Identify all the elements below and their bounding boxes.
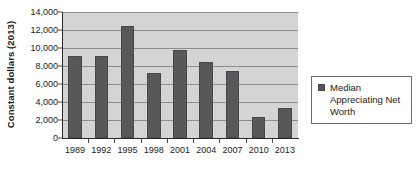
x-axis-tick-mark <box>246 139 247 143</box>
bar <box>199 62 213 138</box>
bar <box>278 108 292 138</box>
x-axis-tick-label: 1998 <box>144 145 164 155</box>
x-axis-tick-mark <box>219 139 220 143</box>
y-axis-title: Constant dollars (2013) <box>0 0 22 148</box>
y-axis-tick-label: 4,000 <box>35 97 58 107</box>
x-axis-tick-label: 2007 <box>222 145 242 155</box>
x-axis-tick-label: 2013 <box>275 145 295 155</box>
legend-swatch-icon <box>318 84 325 91</box>
y-axis-tick-label: 14,000 <box>30 7 58 17</box>
y-axis-line <box>62 12 63 139</box>
x-axis-tick-mark <box>114 139 115 143</box>
bar-chart: Constant dollars (2013) 02,0004,0006,000… <box>0 0 417 169</box>
x-axis-tick-label: 2010 <box>249 145 269 155</box>
x-axis-tick-mark <box>167 139 168 143</box>
x-axis-tick-label: 1995 <box>118 145 138 155</box>
x-axis-tick-label: 1989 <box>65 145 85 155</box>
legend: Median Appreciating Net Worth <box>311 76 412 124</box>
x-axis-tick-label: 1992 <box>91 145 111 155</box>
y-axis-tick-label: 6,000 <box>35 79 58 89</box>
y-axis-title-text: Constant dollars (2013) <box>6 20 17 127</box>
legend-entry-label: Median Appreciating Net Worth <box>330 82 407 118</box>
x-axis-tick-mark <box>88 139 89 143</box>
bar <box>173 50 187 138</box>
bar <box>252 117 266 138</box>
bar <box>68 56 82 138</box>
x-axis-tick-mark <box>272 139 273 143</box>
x-axis-tick-mark <box>141 139 142 143</box>
bar <box>147 73 161 138</box>
bar <box>95 56 109 138</box>
y-axis-tick-label: 10,000 <box>30 43 58 53</box>
x-axis-tick-labels: 198919921995199820012004200720102013 <box>62 139 298 165</box>
y-axis-tick-labels: 02,0004,0006,0008,00010,00012,00014,000 <box>20 12 62 138</box>
bar <box>121 26 135 138</box>
y-axis-tick-label: 2,000 <box>35 115 58 125</box>
y-axis-tick-label: 8,000 <box>35 61 58 71</box>
x-axis-tick-label: 2004 <box>196 145 216 155</box>
x-axis-tick-mark <box>193 139 194 143</box>
x-axis-tick-label: 2001 <box>170 145 190 155</box>
plot-area <box>62 12 298 138</box>
bar <box>226 71 240 139</box>
bars-group <box>62 12 298 138</box>
y-axis-tick-label: 12,000 <box>30 25 58 35</box>
